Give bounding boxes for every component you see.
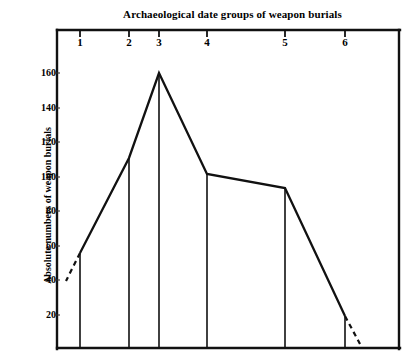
chart-figure: Archaeological date groups of weapon bur… [0, 0, 414, 364]
data-line [80, 73, 345, 316]
dashed-extension-right [345, 316, 360, 344]
drop-lines [80, 73, 345, 348]
plot-area [0, 0, 414, 364]
dashed-extension-left [66, 253, 80, 281]
